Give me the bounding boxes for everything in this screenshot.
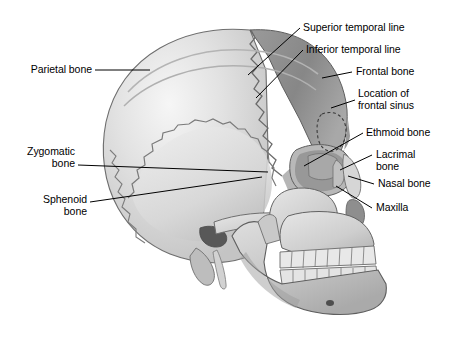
label-frontal-sinus-line1: Location of — [358, 88, 409, 100]
label-superior-temporal-line: Superior temporal line — [303, 22, 405, 34]
label-sphenoid-bone-line1: Sphenoid — [0, 194, 87, 206]
label-maxilla: Maxilla — [376, 202, 408, 214]
label-zygomatic-bone-line1: Zygomatic — [0, 146, 75, 158]
leader-frontal-sinus — [331, 100, 355, 108]
label-sphenoid-bone-line2: bone — [0, 206, 87, 218]
leader-superior-temporal-line — [248, 28, 300, 75]
label-frontal-sinus-line2: frontal sinus — [358, 100, 414, 112]
leader-ethmoid-bone — [304, 133, 363, 166]
leader-zygomatic-bone — [78, 165, 268, 172]
label-parietal-bone: Parietal bone — [0, 64, 92, 76]
label-zygomatic-bone-line2: bone — [0, 158, 75, 170]
skull-anatomy-figure: Parietal bone Zygomatic bone Sphenoid bo… — [0, 0, 458, 342]
leader-nasal-bone — [348, 176, 374, 184]
label-nasal-bone: Nasal bone — [378, 178, 431, 190]
leader-frontal-bone — [322, 72, 352, 78]
leader-maxilla — [336, 186, 372, 208]
label-frontal-bone: Frontal bone — [356, 66, 414, 78]
label-lacrimal-bone-line2: bone — [376, 161, 399, 173]
leader-sphenoid-bone — [90, 177, 262, 202]
leader-inferior-temporal-line — [256, 50, 303, 98]
label-lacrimal-bone-line1: Lacrimal — [376, 149, 415, 161]
label-inferior-temporal-line: Inferior temporal line — [306, 44, 401, 56]
label-ethmoid-bone: Ethmoid bone — [366, 127, 430, 139]
leader-lacrimal-bone — [340, 155, 372, 170]
